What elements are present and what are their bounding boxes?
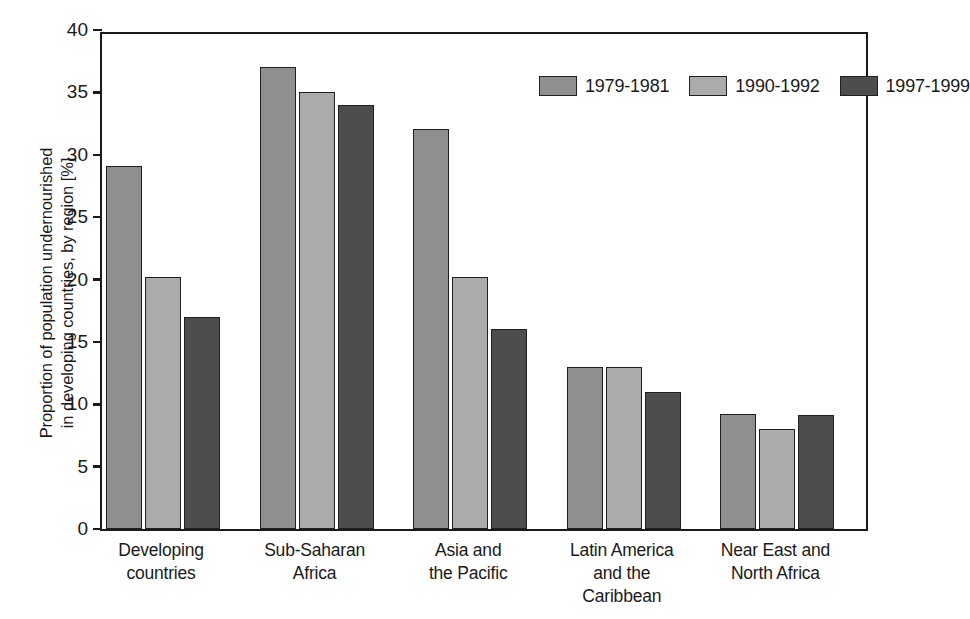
y-axis-tick-mark: [93, 91, 102, 94]
bar: [798, 415, 834, 529]
bar: [645, 392, 681, 529]
y-axis-tick-label: 40: [28, 18, 88, 42]
legend-label-1990-1992: 1990-1992: [735, 76, 819, 96]
y-axis-tick-label: 15: [28, 330, 88, 354]
legend-swatch-1990-1992: [689, 76, 727, 96]
plot-area: 0510152025303540 1979-1981 1990-1992 199…: [100, 32, 868, 531]
y-axis-tick-mark: [93, 403, 102, 406]
y-axis-tick-mark: [93, 278, 102, 281]
bar: [299, 92, 335, 529]
y-axis-tick-label: 35: [28, 80, 88, 104]
bar: [491, 329, 527, 529]
bar: [606, 367, 642, 529]
legend: 1979-1981 1990-1992 1997-1999: [539, 76, 970, 96]
bar: [413, 129, 449, 529]
bar: [567, 367, 603, 529]
y-axis-tick-mark: [93, 465, 102, 468]
bar: [720, 414, 756, 529]
y-axis-tick-label: 0: [28, 517, 88, 541]
bar: [260, 67, 296, 529]
x-axis-category-label-line: Caribbean: [522, 585, 722, 608]
legend-label-1979-1981: 1979-1981: [585, 76, 669, 96]
y-axis-tick-label: 5: [28, 455, 88, 479]
x-axis-category-label: Near East andNorth Africa: [675, 539, 875, 585]
y-axis-tick-label: 25: [28, 205, 88, 229]
bar: [145, 277, 181, 529]
y-axis-tick-mark: [93, 29, 102, 32]
y-axis-tick-mark: [93, 216, 102, 219]
bar: [106, 166, 142, 529]
bar: [452, 277, 488, 529]
y-axis-tick-mark: [93, 341, 102, 344]
bar: [184, 317, 220, 529]
x-axis-category-label-line: Near East and: [675, 539, 875, 562]
y-axis-tick-mark: [93, 154, 102, 157]
legend-item: 1997-1999: [840, 76, 970, 96]
legend-label-1997-1999: 1997-1999: [886, 76, 970, 96]
x-axis-category-label-line: North Africa: [675, 562, 875, 585]
y-axis-tick-label: 10: [28, 392, 88, 416]
y-axis-tick-mark: [93, 528, 102, 531]
y-axis-tick-label: 30: [28, 143, 88, 167]
y-axis-tick-label: 20: [28, 268, 88, 292]
legend-swatch-1979-1981: [539, 76, 577, 96]
legend-swatch-1997-1999: [840, 76, 878, 96]
legend-item: 1990-1992: [689, 76, 819, 96]
bar: [759, 429, 795, 529]
bar: [338, 105, 374, 529]
legend-item: 1979-1981: [539, 76, 669, 96]
